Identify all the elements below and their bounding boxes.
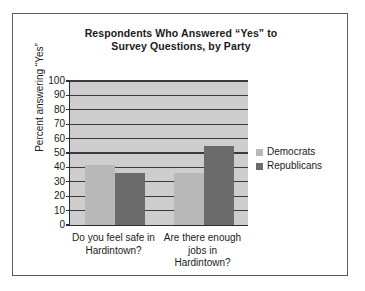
- bar-republicans-group-2: [204, 146, 234, 225]
- legend-label-democrats: Democrats: [267, 147, 315, 157]
- category-label-2-line-2: jobs in: [151, 245, 254, 258]
- y-axis-tick-mark: [66, 181, 70, 182]
- y-axis-tick-mark: [66, 152, 70, 153]
- legend-item-republicans: Republicans: [256, 159, 322, 173]
- bar-republicans-group-1: [115, 173, 145, 225]
- y-axis-tick-label: 10: [35, 206, 65, 216]
- category-label-1-line-2: Hardintown?: [62, 245, 165, 258]
- category-label-2: Are there enoughjobs inHardintown?: [151, 232, 254, 270]
- y-axis-tick-label: 60: [35, 134, 65, 144]
- y-axis-tick-label: 0: [35, 220, 65, 230]
- y-axis-tick-mark: [66, 138, 70, 139]
- y-axis-tick-mark: [66, 210, 70, 211]
- y-axis-tick-label: 50: [35, 148, 65, 158]
- y-axis-tick-mark: [66, 224, 70, 225]
- chart-legend: DemocratsRepublicans: [256, 145, 322, 173]
- legend-swatch-democrats: [256, 149, 263, 156]
- bar-democrats-group-1: [85, 165, 115, 225]
- y-axis-tick-mark: [66, 124, 70, 125]
- y-axis-tick-mark: [66, 167, 70, 168]
- plot-area: 1009080706050403020100: [69, 81, 248, 226]
- y-axis-tick-mark: [66, 95, 70, 96]
- y-axis-tick-label: 100: [35, 76, 65, 86]
- gridline: [70, 95, 248, 96]
- chart-title-line-1: Respondents Who Answered “Yes” to: [13, 27, 349, 40]
- gridline: [70, 109, 248, 110]
- chart-figure: Respondents Who Answered “Yes” to Survey…: [12, 13, 348, 276]
- y-axis-tick-label: 20: [35, 191, 65, 201]
- y-axis-tick-mark: [66, 109, 70, 110]
- category-label-2-line-3: Hardintown?: [151, 257, 254, 270]
- gridline: [70, 124, 248, 125]
- y-axis-tick-mark: [66, 196, 70, 197]
- category-label-2-line-1: Are there enough: [151, 232, 254, 245]
- legend-item-democrats: Democrats: [256, 145, 322, 159]
- category-label-1-line-1: Do you feel safe in: [62, 232, 165, 245]
- y-axis-tick-label: 40: [35, 162, 65, 172]
- gridline: [70, 80, 248, 81]
- legend-swatch-republicans: [256, 163, 263, 170]
- category-label-1: Do you feel safe inHardintown?: [62, 232, 165, 257]
- y-axis-tick-mark: [66, 80, 70, 81]
- bar-democrats-group-2: [174, 173, 204, 225]
- y-axis-tick-label: 70: [35, 119, 65, 129]
- y-axis-tick-label: 90: [35, 90, 65, 100]
- legend-label-republicans: Republicans: [267, 161, 322, 171]
- gridline: [70, 138, 248, 139]
- y-axis-tick-label: 30: [35, 177, 65, 187]
- y-axis-tick-label: 80: [35, 105, 65, 115]
- chart-title: Respondents Who Answered “Yes” to Survey…: [13, 27, 349, 53]
- chart-title-line-2: Survey Questions, by Party: [13, 40, 349, 53]
